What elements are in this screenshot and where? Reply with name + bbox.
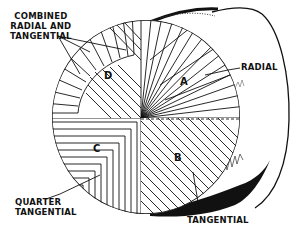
segment-label-b: B [174, 152, 182, 163]
label-line: TANGENTIAL [15, 207, 77, 217]
label-line: TANGENTIAL [10, 31, 72, 41]
label-radial: RADIAL [241, 62, 278, 72]
segment-label-d: D [104, 70, 112, 81]
label-line: RADIAL AND [10, 21, 72, 31]
label-line: COMBINED [10, 11, 72, 21]
label-combined-radial-tangential: COMBINED RADIAL AND TANGENTIAL [10, 11, 72, 41]
segment-label-c: C [93, 143, 100, 154]
segment-label-a: A [180, 76, 188, 87]
label-tangential: TANGENTIAL [187, 215, 249, 225]
label-quarter-tangential: QUARTER TANGENTIAL [15, 197, 77, 217]
label-line: QUARTER [15, 197, 77, 207]
